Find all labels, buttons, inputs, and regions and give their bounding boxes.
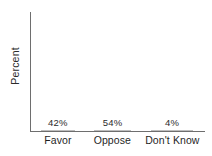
bar-column-favor: 42% bbox=[41, 118, 75, 132]
x-axis-label-dont-know: Don't Know bbox=[140, 134, 205, 146]
bar-chart: Percent 42% 54% 4% Favor Oppose Don't Kn bbox=[0, 0, 212, 156]
bar-group-dont-know: 4% bbox=[151, 12, 193, 131]
bar-rect-favor bbox=[41, 130, 75, 131]
plot-area: 42% 54% 4% bbox=[31, 12, 205, 131]
x-axis-label-favor: Favor bbox=[31, 134, 85, 146]
bar-value-label-favor: 42% bbox=[48, 118, 68, 128]
x-axis-category-labels: Favor Oppose Don't Know bbox=[31, 134, 205, 152]
bar-rect-dont-know bbox=[151, 130, 193, 131]
y-axis-title-label: Percent bbox=[9, 47, 21, 85]
bar-group-favor: 42% bbox=[41, 12, 75, 131]
bar-column-dont-know: 4% bbox=[151, 118, 193, 132]
bar-column-oppose: 54% bbox=[94, 118, 131, 132]
bar-rect-oppose bbox=[94, 130, 131, 131]
x-axis-line bbox=[30, 131, 205, 132]
y-axis-title: Percent bbox=[0, 0, 30, 131]
x-axis-label-oppose: Oppose bbox=[85, 134, 140, 146]
bar-value-label-dont-know: 4% bbox=[165, 118, 179, 128]
bar-value-label-oppose: 54% bbox=[103, 118, 123, 128]
bar-group-oppose: 54% bbox=[94, 12, 131, 131]
